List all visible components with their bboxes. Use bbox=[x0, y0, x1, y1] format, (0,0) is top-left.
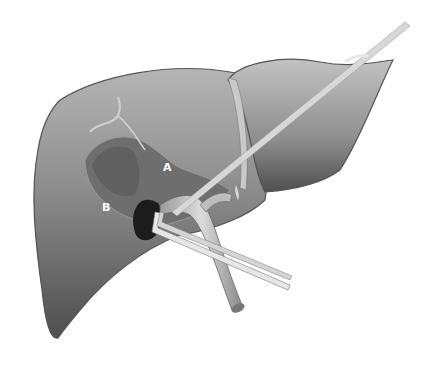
liver-drawing bbox=[0, 0, 429, 365]
label-b: B bbox=[102, 201, 110, 214]
label-a: A bbox=[163, 161, 172, 174]
liver-illustration: A B bbox=[0, 0, 429, 365]
